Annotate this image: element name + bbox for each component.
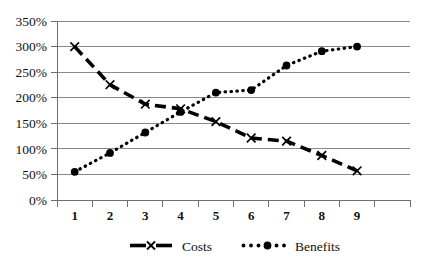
x-tick-label-8: 8 (319, 208, 326, 223)
legend-benefits-circle-marker (264, 242, 272, 250)
benefits-marker-5 (212, 89, 220, 97)
y-tick-label-0: 0% (29, 193, 47, 208)
y-tick-label-150: 150% (16, 116, 48, 131)
legend-label-benefits: Benefits (295, 239, 340, 254)
chart-container: 350% 300% 250% 200% 150% 100% 50% 0% (0, 0, 431, 262)
x-tick-label-5: 5 (213, 208, 220, 223)
y-tick-label-350: 350% (16, 14, 48, 29)
y-tick-label-100: 100% (16, 142, 48, 157)
x-tick-label-7: 7 (283, 208, 290, 223)
legend-benefits-dots-left (242, 244, 261, 248)
x-tick-label-2: 2 (107, 208, 114, 223)
x-tick-label-3: 3 (142, 208, 149, 223)
x-tick-label-1: 1 (71, 208, 78, 223)
benefits-marker-6 (247, 86, 255, 94)
line-chart: 350% 300% 250% 200% 150% 100% 50% 0% (0, 0, 431, 262)
benefits-marker-3 (141, 129, 149, 137)
y-tick-label-300: 300% (16, 39, 48, 54)
x-tick-label-4: 4 (177, 208, 184, 223)
benefits-marker-1 (71, 168, 79, 176)
y-tick-label-50: 50% (22, 167, 47, 182)
x-tick-label-9: 9 (354, 208, 361, 223)
benefits-marker-9 (353, 43, 361, 51)
x-tick-label-6: 6 (248, 208, 255, 223)
benefits-marker-7 (283, 62, 291, 70)
legend-label-costs: Costs (182, 239, 212, 254)
benefits-marker-8 (318, 47, 326, 55)
y-tick-label-200: 200% (16, 90, 48, 105)
y-tick-label-250: 250% (16, 65, 48, 80)
benefits-marker-4 (177, 108, 185, 116)
benefits-marker-2 (106, 149, 114, 157)
